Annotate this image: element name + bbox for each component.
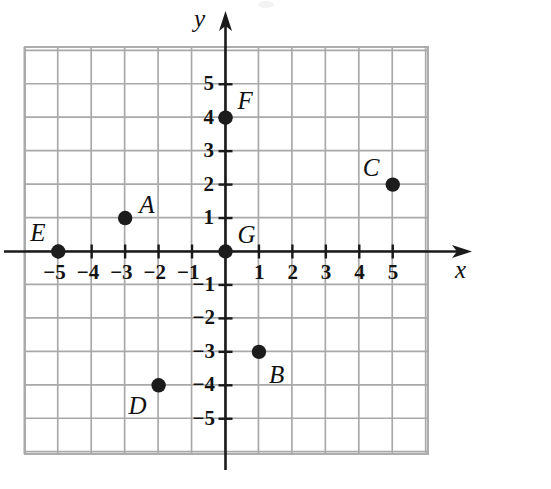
x-tick-label-neg-5: −5	[43, 262, 65, 283]
y-tick-label-3: 3	[204, 140, 215, 161]
x-tick-label-1: 1	[254, 262, 265, 283]
point-label-a: A	[139, 192, 154, 217]
point-label-c: C	[363, 155, 380, 180]
data-point-c	[386, 177, 400, 191]
y-tick-label-neg-5: −5	[193, 408, 215, 429]
y-tick-label-4: 4	[204, 107, 215, 128]
y-tick-label-neg-1: −1	[193, 274, 215, 295]
y-tick-label-neg-3: −3	[193, 341, 215, 362]
point-label-g: G	[238, 222, 256, 247]
coordinate-plane-figure: ABCDEFGxy−5−4−3−2−11234512345−1−2−3−4−5	[0, 0, 551, 489]
x-tick-label-5: 5	[388, 262, 399, 283]
data-point-e	[51, 244, 65, 258]
point-label-d: D	[129, 393, 147, 418]
point-label-b: B	[269, 362, 284, 387]
point-label-f: F	[238, 88, 253, 113]
y-tick-label-neg-4: −4	[193, 374, 215, 395]
y-tick-label-neg-2: −2	[193, 307, 215, 328]
data-point-b	[252, 345, 266, 359]
data-point-f	[218, 111, 232, 125]
y-tick-label-1: 1	[204, 207, 215, 228]
x-tick-label-4: 4	[354, 262, 365, 283]
y-tick-label-2: 2	[204, 174, 215, 195]
data-point-a	[118, 211, 132, 225]
x-tick-label-2: 2	[287, 262, 298, 283]
data-point-d	[151, 378, 165, 392]
x-tick-label-3: 3	[321, 262, 332, 283]
x-axis-label: x	[455, 257, 466, 282]
y-tick-label-5: 5	[204, 73, 215, 94]
y-axis-label: y	[194, 6, 205, 31]
data-point-g	[218, 244, 232, 258]
x-tick-label-neg-3: −3	[110, 262, 132, 283]
coordinate-plane-canvas	[0, 0, 551, 489]
x-tick-label-neg-2: −2	[144, 262, 166, 283]
point-label-e: E	[30, 220, 45, 245]
x-tick-label-neg-4: −4	[77, 262, 99, 283]
